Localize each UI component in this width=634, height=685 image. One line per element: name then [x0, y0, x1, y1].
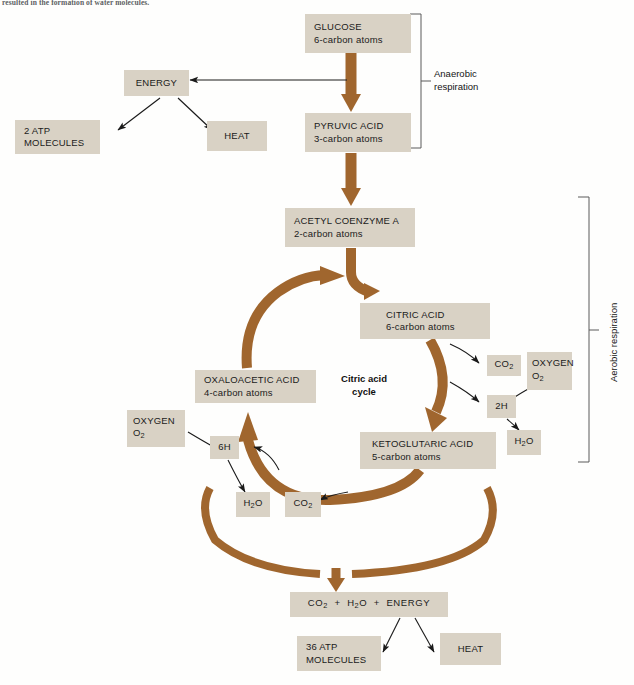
node-h2o-right-label: H2O [515, 435, 534, 450]
aerobic-respiration-label: Aerobic respiration [608, 303, 619, 382]
node-oxygen-left-line2: O2 [133, 427, 185, 442]
node-ketoglutaric-line2: 5-carbon atoms [372, 451, 496, 464]
node-acetyl-coenzyme-a: ACETYL COENZYME A 2-carbon atoms [285, 208, 415, 247]
arrow-glucose-to-pyruvic [341, 53, 361, 112]
arrow-energy-to-atp2 [118, 98, 160, 130]
arrow-converge-to-products [327, 568, 345, 592]
bracket-aerobic [578, 197, 599, 462]
node-h2o-bottom-label: H2O [244, 497, 263, 512]
node-acetyl-line1: ACETYL COENZYME A [294, 215, 415, 228]
node-co2-right-label: CO2 [495, 358, 514, 373]
node-citric-acid-line2: 6-carbon atoms [386, 321, 490, 334]
node-oxaloacetic-acid: OXALOACETIC ACID 4-carbon atoms [195, 370, 316, 403]
arrow-citric-to-2h [450, 382, 479, 402]
node-oxygen-right-line1: OXYGEN [532, 357, 572, 370]
arrow-pyruvic-to-acetyl [341, 153, 361, 206]
node-ketoglutaric-line1: KETOGLUTARIC ACID [372, 438, 496, 451]
node-acetyl-line2: 2-carbon atoms [294, 228, 415, 241]
arrow-cycle-oxaloacetic-to-citric [247, 266, 345, 368]
node-36-atp-line2: MOLECULES [306, 654, 381, 667]
arrow-acetyl-to-citric [351, 248, 380, 300]
node-oxygen-right: OXYGEN O2 [527, 352, 572, 390]
node-co2-right: CO2 [487, 355, 521, 376]
node-citric-acid-line1: CITRIC ACID [386, 309, 490, 322]
arrow-right-to-products [352, 488, 493, 574]
node-h2o-right: H2O [507, 430, 541, 455]
node-2h: 2H [487, 395, 516, 418]
node-co2-bottom-label: CO2 [294, 497, 313, 512]
node-h2o-bottom: H2O [236, 492, 270, 517]
page-caption: resulted in the formation of water molec… [2, 0, 149, 7]
diagram-page: resulted in the formation of water molec… [0, 0, 634, 685]
node-2-atp-line1: 2 ATP [24, 125, 100, 138]
node-2h-label: 2H [495, 400, 508, 413]
node-final-products-label: CO2 + H2O + ENERGY [308, 597, 430, 612]
node-pyruvic-acid-line1: PYRUVIC ACID [314, 120, 411, 133]
node-heat-top: HEAT [207, 121, 267, 151]
citric-acid-cycle-line2: cycle [333, 385, 395, 398]
arrow-oxygen-left-to-6h [188, 432, 212, 446]
arrow-6h-to-h2o-bottom [228, 460, 245, 492]
node-energy-label: ENERGY [136, 77, 177, 90]
node-oxygen-left: OXYGEN O2 [127, 410, 185, 447]
citric-acid-cycle-line1: Citric acid [333, 372, 395, 385]
node-citric-acid: CITRIC ACID 6-carbon atoms [360, 303, 490, 339]
node-2-atp-molecules: 2 ATP MOLECULES [15, 120, 100, 154]
node-6h: 6H [210, 436, 239, 459]
node-glucose: GLUCOSE 6-carbon atoms [305, 14, 411, 53]
node-co2-bottom: CO2 [285, 492, 321, 517]
anaerobic-respiration-line2: respiration [434, 81, 478, 94]
bracket-anaerobic [410, 14, 431, 148]
diagram-arrows-layer [0, 0, 634, 685]
anaerobic-respiration-line1: Anaerobic [434, 68, 478, 81]
node-oxaloacetic-line1: OXALOACETIC ACID [204, 374, 316, 387]
arrow-citric-to-ketoglutaric [425, 340, 447, 432]
node-pyruvic-acid-line2: 3-carbon atoms [314, 133, 411, 146]
node-6h-label: 6H [218, 441, 231, 454]
arrow-products-to-atp36 [383, 618, 400, 652]
node-36-atp-line1: 36 ATP [306, 641, 381, 654]
arrow-citric-to-co2 [450, 344, 479, 363]
node-glucose-line1: GLUCOSE [314, 21, 411, 34]
node-oxaloacetic-line2: 4-carbon atoms [204, 387, 316, 400]
node-heat-bottom-label: HEAT [458, 643, 483, 656]
node-2-atp-line2: MOLECULES [24, 137, 100, 150]
node-36-atp-molecules: 36 ATP MOLECULES [297, 636, 381, 671]
anaerobic-respiration-label: Anaerobic respiration [434, 68, 478, 93]
node-pyruvic-acid: PYRUVIC ACID 3-carbon atoms [305, 113, 411, 152]
node-oxygen-left-line1: OXYGEN [133, 415, 185, 428]
node-oxygen-right-line2: O2 [532, 370, 572, 385]
node-glucose-line2: 6-carbon atoms [314, 34, 411, 47]
arrow-products-to-heat [415, 618, 434, 652]
arrow-2h-to-h2o [507, 419, 519, 430]
node-energy: ENERGY [124, 70, 189, 96]
node-final-products: CO2 + H2O + ENERGY [290, 592, 448, 617]
citric-acid-cycle-label: Citric acid cycle [333, 372, 395, 398]
node-ketoglutaric-acid: KETOGLUTARIC ACID 5-carbon atoms [360, 432, 496, 469]
node-heat-bottom: HEAT [440, 633, 501, 665]
node-heat-top-label: HEAT [224, 130, 249, 143]
